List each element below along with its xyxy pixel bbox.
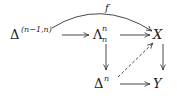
node-horn-sub: n <box>102 35 107 44</box>
node-simplex: Δ n <box>94 74 109 91</box>
node-x: X <box>152 27 163 42</box>
node-horn-boundary-base: Δ <box>10 27 19 42</box>
commutative-diagram: Δ (n−1,n) Λ n n X Δ n Y f <box>0 0 177 100</box>
arrow-f-label: f <box>104 2 111 13</box>
node-x-label: X <box>152 27 163 42</box>
node-horn-boundary: Δ (n−1,n) <box>10 25 52 42</box>
node-y: Y <box>153 76 163 91</box>
node-horn-boundary-sup: (n−1,n) <box>21 25 52 34</box>
node-horn: Λ n n <box>92 24 107 44</box>
node-horn-sup: n <box>102 24 107 33</box>
arrow-dashed-lift <box>118 43 153 77</box>
node-simplex-base: Δ <box>94 76 103 91</box>
node-simplex-sup: n <box>104 74 109 83</box>
node-y-label: Y <box>153 76 163 91</box>
